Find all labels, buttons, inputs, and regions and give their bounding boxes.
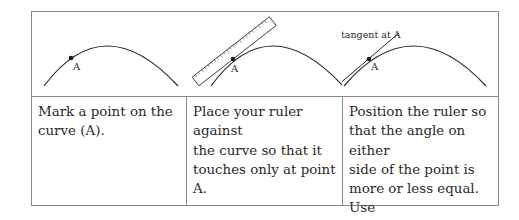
tangent-annotation: tangent at A (342, 29, 401, 40)
step-1-text: Mark a point on the curve (A). (38, 102, 184, 141)
tangent-steps-table: A (31, 11, 499, 206)
column-divider (342, 96, 343, 205)
curve-tangent-diagram: A tangent at A (342, 12, 499, 96)
step-3-text: Position the ruler so that the angle on … (349, 102, 497, 220)
curve (344, 46, 486, 86)
curve (44, 46, 178, 86)
column-divider (186, 96, 187, 205)
point-a-dot (231, 57, 236, 62)
ruler-icon (192, 17, 276, 86)
curve-ruler-diagram: A (187, 12, 342, 96)
figure-draw-tangent: A tangent at A (342, 12, 499, 96)
curve-diagram: A (32, 12, 187, 96)
point-label: A (230, 63, 239, 74)
point-label: A (72, 61, 81, 72)
point-a-dot (69, 56, 74, 61)
figure-place-ruler: A (187, 12, 342, 96)
point-label: A (370, 61, 379, 72)
figure-mark-point: A (32, 12, 187, 96)
step-2-text: Place your ruler against the curve so th… (193, 102, 341, 198)
row-divider (32, 96, 498, 97)
